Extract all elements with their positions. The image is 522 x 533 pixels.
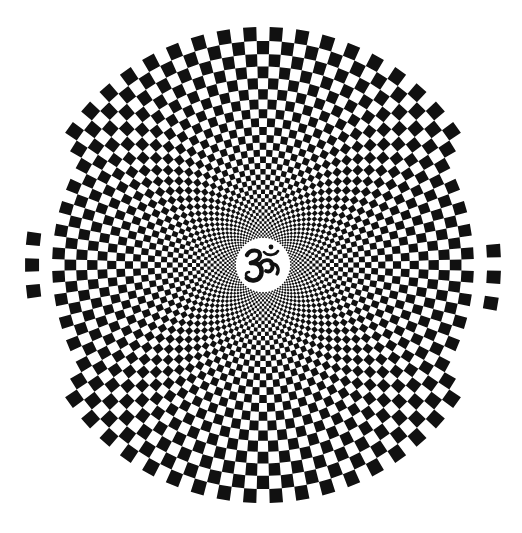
center-disc: [236, 238, 290, 292]
center-om-symbol: [236, 238, 290, 292]
mandala-canvas: [0, 0, 522, 533]
